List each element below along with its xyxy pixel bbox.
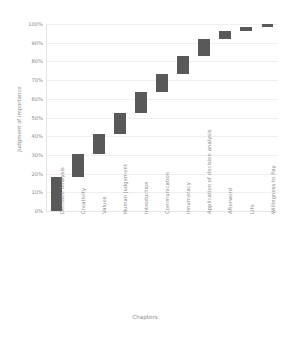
x-axis-tick-labels: Decision AnalysisCreativityValuesHuman J… [0,0,290,339]
x-tick-label-decision-analysis: Decision Analysis [59,167,65,214]
y-axis-title: Judgment of importance [16,64,22,174]
x-tick-label-communication: Communication [164,172,170,214]
x-tick-label-life: Life [249,204,255,214]
x-tick-label-willingness-to-pay: Willingness to Pay [270,165,276,214]
waterfall-chart-figure: 100%90%80%70%60%50%40%30%20%10%0% Decisi… [0,0,290,339]
x-tick-label-human-judgement: Human Judgement [122,164,128,214]
x-axis-title: Chapters [0,314,290,320]
x-tick-label-innumeracy: Innumeracy [185,182,191,214]
x-tick-label-values: Values [101,196,107,214]
x-tick-label-afterword: Afterword [227,188,233,214]
x-tick-label-introduction: Introduction [143,181,149,214]
x-tick-label-application-of-decision-analysis: Application of decision analysis [206,129,212,214]
x-tick-label-creativity: Creativity [80,188,86,214]
